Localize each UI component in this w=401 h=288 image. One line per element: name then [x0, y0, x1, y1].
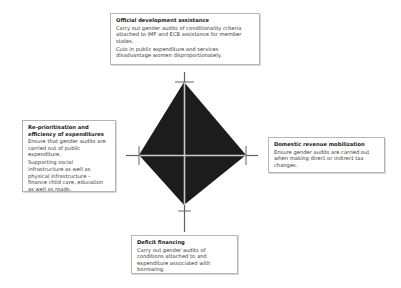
diamond-shape [139, 82, 246, 205]
box-text: Ensure that gender audits are carried ou… [28, 138, 110, 158]
box-text: Supporting social infrastructure as well… [28, 159, 110, 192]
domestic-revenue-mobilization-box: Domestic revenue mobilization Ensure gen… [268, 137, 385, 173]
box-title: Domestic revenue mobilization [274, 141, 379, 148]
box-title: Official development assistance [116, 17, 254, 24]
box-text: Carry out gender audits of conditionalit… [116, 25, 254, 45]
box-title: Re-prioritisation and efficiency of expe… [28, 124, 110, 137]
box-text: Ensure gender audits are carried out whe… [274, 149, 379, 169]
deficit-financing-box: Deficit financing Carry out gender audit… [131, 235, 238, 274]
box-text: Cuts in public expenditure and services … [116, 46, 254, 59]
box-text: Carry out gender audits of conditions at… [137, 247, 232, 273]
reprioritisation-efficiency-box: Re-prioritisation and efficiency of expe… [22, 120, 116, 192]
box-title: Deficit financing [137, 239, 232, 246]
official-development-assistance-box: Official development assistance Carry ou… [110, 13, 260, 65]
